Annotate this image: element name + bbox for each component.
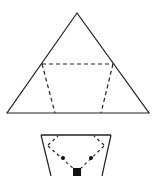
inner-dash-top-right [94,136,104,145]
fold-line-left [42,64,55,113]
net-diagram [0,0,153,176]
outer-triangle [7,13,149,113]
inner-dash-top-left [48,136,58,145]
dot-right [89,156,93,160]
triangle-net [7,13,149,113]
folded-shape [41,135,111,176]
folded-right-edge [102,135,111,176]
folded-left-edge [41,135,51,176]
dot-left [61,156,65,160]
fold-line-right [101,64,113,113]
square-marker [73,168,81,176]
